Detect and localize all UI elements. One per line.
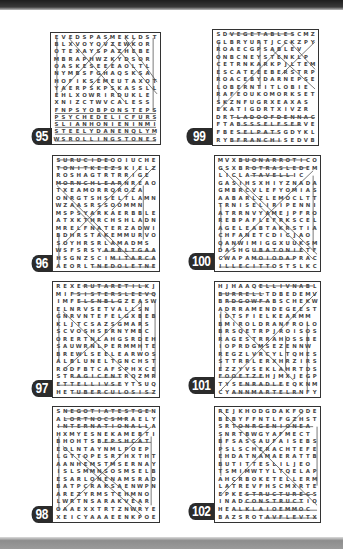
grid-letter: K <box>75 217 82 225</box>
grid-letter: C <box>264 351 271 359</box>
grid-letter: A <box>62 343 69 351</box>
grid-letter: S <box>230 247 237 255</box>
grid-letter: P <box>75 483 82 491</box>
grid-letter: I <box>224 172 231 180</box>
grid-letter: Z <box>116 506 123 514</box>
grid-letter: T <box>130 107 137 114</box>
grid-letter: S <box>89 306 96 314</box>
grid-letter: V <box>103 381 110 389</box>
grid-letter: B <box>74 70 81 77</box>
grid-letter: B <box>271 298 278 306</box>
grid-letter: W <box>62 498 69 506</box>
grid-letter: A <box>271 336 278 344</box>
puzzle-grid: HJHAAQELLIVNABLBURRELLTDBEDEMVBRDGOWFABS… <box>214 281 321 398</box>
grid-letter: O <box>251 157 258 165</box>
grid-letter: R <box>215 136 222 144</box>
grid-letter: A <box>123 351 130 359</box>
grid-letter: L <box>62 306 69 314</box>
grid-letter: P <box>144 107 151 114</box>
grid-letter: T <box>89 232 96 240</box>
grid-letter: O <box>222 46 229 54</box>
grid-letter: O <box>130 446 137 454</box>
grid-letter: E <box>291 513 298 521</box>
grid-letter: S <box>237 446 244 454</box>
grid-letter: L <box>123 291 130 299</box>
grid-letter: S <box>137 306 144 314</box>
grid-letter: H <box>217 506 224 514</box>
grid-letter: T <box>271 247 278 255</box>
grid-letter: H <box>102 70 109 77</box>
grid-letter: T <box>75 453 82 461</box>
grid-letter: X <box>89 506 96 514</box>
grid-letter: R <box>137 321 144 329</box>
grid-letter: A <box>62 461 69 469</box>
grid-letter: A <box>284 313 291 321</box>
grid-letter: S <box>116 217 123 225</box>
grid-letter: S <box>137 99 144 106</box>
grid-letter: N <box>143 262 150 270</box>
grid-letter: F <box>109 366 116 374</box>
grid-letter: A <box>264 210 271 218</box>
top-bar <box>0 0 343 10</box>
grid-letter: I <box>244 240 251 248</box>
grid-letter: L <box>296 54 303 62</box>
grid-letter: C <box>96 373 103 381</box>
grid-letter: V <box>123 498 130 506</box>
grid-letter: O <box>311 321 318 329</box>
grid-letter: A <box>150 255 157 263</box>
grid-letter: C <box>103 416 110 424</box>
grid-letter: A <box>96 232 103 240</box>
grid-letter: O <box>224 373 231 381</box>
grid-letter: U <box>137 114 144 121</box>
grid-letter: N <box>109 128 116 135</box>
grid-letter: L <box>230 446 237 454</box>
grid-letter: R <box>291 491 298 499</box>
grid-letter: B <box>305 438 312 446</box>
grid-letter: L <box>276 84 283 92</box>
grid-letter: O <box>82 408 89 416</box>
grid-letter: T <box>278 491 285 499</box>
grid-letter: R <box>137 255 144 263</box>
grid-letter: S <box>278 298 285 306</box>
grid-letter: E <box>144 136 151 143</box>
grid-letter: U <box>249 99 256 107</box>
grid-letter: Y <box>242 39 249 47</box>
grid-letter: X <box>69 217 76 225</box>
grid-letter: S <box>143 358 150 366</box>
grid-letter: E <box>264 476 271 484</box>
grid-letter: R <box>116 180 123 188</box>
grid-letter: E <box>311 446 318 454</box>
grid-letter: Y <box>60 70 67 77</box>
grid-letter: Z <box>228 99 235 107</box>
grid-letter: R <box>215 46 222 54</box>
grid-letter: Y <box>264 431 271 439</box>
grid-letter: F <box>251 416 258 424</box>
grid-letter: R <box>89 491 96 499</box>
grid-letter: L <box>284 476 291 484</box>
grid-letter: B <box>237 165 244 173</box>
grid-letter: E <box>278 388 285 396</box>
grid-letter: Z <box>278 343 285 351</box>
grid-letter: R <box>257 491 264 499</box>
grid-letter: T <box>251 328 258 336</box>
grid-letter: I <box>291 328 298 336</box>
grid-letter: I <box>103 255 110 263</box>
grid-letter: E <box>62 283 69 291</box>
grid-letter: S <box>305 416 312 424</box>
grid-letter: L <box>81 128 88 135</box>
grid-letter: A <box>257 388 264 396</box>
grid-letter: L <box>215 84 222 92</box>
grid-letter: S <box>278 165 285 173</box>
grid-letter: A <box>237 283 244 291</box>
grid-letter: X <box>289 99 296 107</box>
grid-letter: B <box>257 225 264 233</box>
grid-letter: S <box>251 366 258 374</box>
grid-letter: A <box>123 85 130 92</box>
grid-letter: N <box>271 423 278 431</box>
grid-letter: R <box>262 106 269 114</box>
grid-letter: L <box>143 165 150 173</box>
grid-letter: D <box>262 76 269 84</box>
grid-letter: R <box>62 336 69 344</box>
grid-letter: G <box>264 408 271 416</box>
grid-letter: Z <box>137 373 144 381</box>
